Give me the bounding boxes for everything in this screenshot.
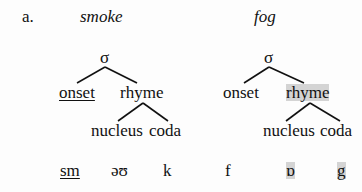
nucleus-node-left: nucleus: [91, 122, 143, 139]
syllable-node-right: σ: [264, 49, 273, 66]
segment-nucleus-right: ɒ: [286, 162, 295, 179]
segment-coda-left: k: [163, 162, 172, 179]
syllable-node-left: σ: [100, 49, 109, 66]
example-label: a.: [22, 8, 34, 25]
segment-onset-right: f: [225, 162, 231, 179]
nucleus-node-right: nucleus: [263, 122, 315, 139]
rhyme-node-right: rhyme: [286, 84, 329, 101]
onset-node-left: onset: [59, 84, 95, 101]
word-smoke: smoke: [80, 8, 122, 25]
segment-nucleus-left: əʊ: [111, 162, 128, 179]
coda-node-right: coda: [320, 122, 352, 139]
word-fog: fog: [254, 8, 276, 25]
segment-coda-right: g: [337, 162, 346, 179]
rhyme-node-left: rhyme: [120, 84, 163, 101]
coda-node-left: coda: [149, 122, 181, 139]
onset-node-right: onset: [223, 84, 259, 101]
segment-onset-left: sm: [60, 162, 80, 179]
